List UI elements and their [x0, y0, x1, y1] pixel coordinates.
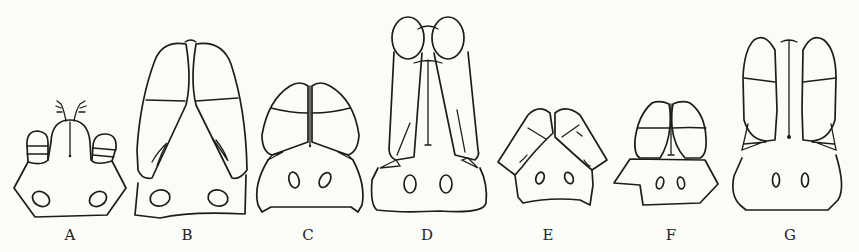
panel-label-a: A: [58, 226, 82, 244]
drawing-f: [614, 102, 718, 205]
panel-label-e: E: [536, 226, 560, 244]
figure-plate: A B C D E F G: [0, 0, 859, 252]
panel-label-b: B: [175, 226, 199, 244]
panel-label-c: C: [296, 226, 320, 244]
drawing-g: [733, 38, 842, 210]
panel-label-g: G: [778, 226, 802, 244]
panel-label-d: D: [415, 226, 439, 244]
drawing-e: [498, 109, 607, 205]
drawing-d: [372, 17, 487, 212]
drawing-a: [14, 101, 126, 217]
drawing-b: [135, 40, 247, 218]
panel-label-f: F: [659, 226, 683, 244]
drawing-c: [257, 83, 363, 212]
